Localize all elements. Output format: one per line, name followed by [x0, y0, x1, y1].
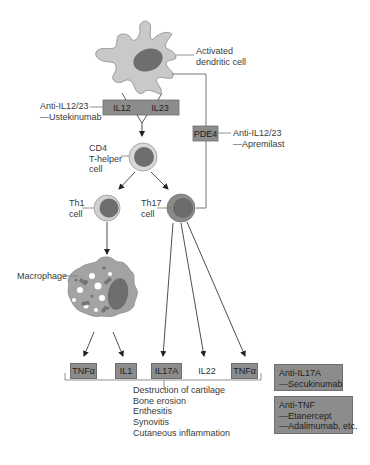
macrophage-label: Macrophage: [17, 271, 67, 282]
outcome-item: Destruction of cartilage: [133, 385, 230, 396]
il23-label: IL23: [141, 100, 179, 115]
dendritic-cell-icon: [96, 21, 176, 94]
cytokine-il22: IL22: [195, 363, 219, 379]
ustekinumab-drug-label: Anti-IL12/23 —Ustekinumab: [40, 101, 102, 122]
cytokine-il1: IL1: [115, 363, 137, 379]
anti-tnf-drug-box: Anti-TNF —Etanercept —Adalimumab, etc.: [274, 396, 353, 434]
outcome-item: Synovitis: [133, 417, 230, 428]
th1-cell-label: Th1 cell: [69, 198, 85, 219]
cd4-t-helper-cell-icon: [129, 143, 157, 171]
il12-label: IL12: [103, 100, 141, 115]
pde4-label: PDE4: [193, 126, 218, 141]
dendritic-cell-label: Activated dendritic cell: [196, 46, 246, 67]
cytokine-tnfa-macrophage: TNFα: [70, 363, 97, 379]
outcome-item: Enthesitis: [133, 406, 230, 417]
cytokine-il17a: IL17A: [151, 363, 182, 379]
clinical-outcomes-list: Destruction of cartilage Bone erosion En…: [133, 385, 230, 439]
cd4-t-helper-cell-label: CD4 T-helper cell: [89, 143, 122, 175]
th17-cell-label: Th17 cell: [141, 198, 162, 219]
secukinumab-drug-box: Anti-IL17A —Secukinumab: [274, 364, 343, 391]
cytokine-tnfa-th17: TNFα: [231, 363, 258, 379]
th1-cell-icon: [94, 195, 120, 221]
macrophage-icon: [68, 257, 137, 317]
outcome-item: Bone erosion: [133, 396, 230, 407]
outcome-item: Cutaneous inflammation: [133, 428, 230, 439]
apremilast-drug-label: Anti-IL12/23 —Apremilast: [233, 128, 285, 149]
